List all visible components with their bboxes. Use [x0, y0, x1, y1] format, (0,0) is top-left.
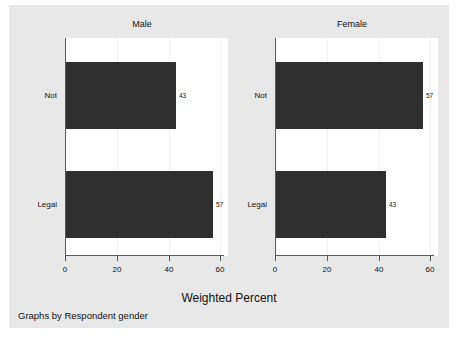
x-tick-female-20: [327, 256, 328, 261]
by-group-note: Graphs by Respondent gender: [18, 310, 148, 322]
panel-male: Male 43 57 0 20 40 60: [56, 38, 228, 278]
x-axis-line-female: [275, 255, 434, 256]
x-tick-female-0: [275, 256, 276, 261]
bar-value-male-legal: 57: [216, 201, 223, 209]
x-tick-label-female-60: 60: [426, 265, 435, 275]
y-category-label-female-not: Not: [227, 91, 267, 101]
x-tick-label-female-20: 20: [323, 265, 332, 275]
x-tick-male-0: [65, 256, 66, 261]
y-axis-line-male: [65, 38, 66, 256]
x-tick-male-20: [117, 256, 118, 261]
bar-female-legal: [275, 171, 386, 238]
plot-area-female: 57 43: [275, 38, 438, 256]
x-tick-female-40: [379, 256, 380, 261]
y-category-label-male-not: Not: [17, 91, 57, 101]
panel-title-female: Female: [266, 18, 438, 30]
y-category-label-female-legal: Legal: [227, 200, 267, 210]
panel-title-male: Male: [56, 18, 228, 30]
gridline-x-60: [220, 38, 221, 256]
bar-male-not: [65, 62, 176, 129]
x-tick-label-male-20: 20: [113, 265, 122, 275]
x-tick-label-male-60: 60: [216, 265, 225, 275]
x-tick-male-60: [220, 256, 221, 261]
x-tick-label-male-40: 40: [165, 265, 174, 275]
graph-region: Male 43 57 0 20 40 60: [9, 5, 449, 328]
plot-area-male: 43 57: [65, 38, 228, 256]
panel-female: Female 57 43 0 20 40 60: [266, 38, 438, 278]
bar-value-female-not: 57: [426, 92, 433, 100]
x-tick-label-male-0: 0: [63, 265, 67, 275]
y-category-label-male-legal: Legal: [17, 200, 57, 210]
x-tick-male-40: [169, 256, 170, 261]
x-tick-label-female-40: 40: [375, 265, 384, 275]
graph-figure: Male 43 57 0 20 40 60: [0, 0, 461, 341]
bar-female-not: [275, 62, 423, 129]
y-axis-line-female: [275, 38, 276, 256]
x-axis-title: Weighted Percent: [9, 291, 449, 306]
gridline-x-60: [430, 38, 431, 256]
bar-value-male-not: 43: [179, 92, 186, 100]
bar-male-legal: [65, 171, 213, 238]
x-tick-female-60: [430, 256, 431, 261]
x-axis-line-male: [65, 255, 224, 256]
x-tick-label-female-0: 0: [273, 265, 277, 275]
bar-value-female-legal: 43: [389, 201, 396, 209]
